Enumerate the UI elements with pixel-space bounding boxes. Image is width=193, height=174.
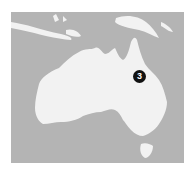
landmass-islands-ne [161,22,173,32]
map-view[interactable]: 3 [11,12,184,163]
landmass-islands-top [53,14,67,22]
map-landmass [11,12,184,163]
location-marker[interactable]: 3 [133,70,146,83]
marker-label: 3 [137,71,142,81]
landmass-australia [35,38,167,136]
landmass-islands-north [66,29,81,36]
landmass-tasmania [140,143,153,158]
landmass-png [115,16,159,38]
landmass-indonesia [11,22,72,40]
